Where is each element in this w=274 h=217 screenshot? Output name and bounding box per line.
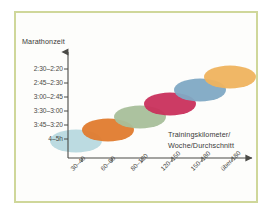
y-tick-label-1: 2:45–2:30 (19, 79, 63, 86)
chart-figure: Marathonzeit 2:30–2:20 2:45–2:30 3:00–2:… (0, 0, 274, 217)
x-axis-title-line-2: Woche/Durchschnitt (168, 141, 234, 150)
y-tick-label-2: 3:00–2:45 (19, 93, 63, 100)
data-markers (50, 66, 256, 153)
y-tick-label-3: 3:30–3:00 (19, 107, 63, 114)
y-tick-label-0: 2:30–2:20 (19, 65, 63, 72)
x-axis-title-line-1: Trainingskilometer/ (168, 130, 230, 139)
y-axis-ticks (64, 69, 68, 139)
data-point-ueber-180 (204, 66, 256, 89)
y-tick-label-5: 4–5h (19, 135, 63, 142)
y-axis-title: Marathonzeit (22, 37, 65, 46)
y-tick-label-4: 3:45–3:20 (19, 121, 63, 128)
